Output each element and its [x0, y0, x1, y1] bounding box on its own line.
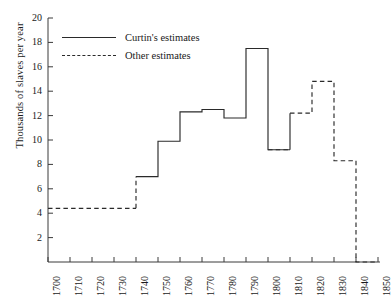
- x-tick-label: 1840: [360, 276, 370, 296]
- x-tick-label: 1710: [74, 276, 84, 296]
- legend-label: Curtin's estimates: [125, 32, 200, 43]
- x-tick-label: 1830: [338, 276, 348, 296]
- legend-swatch-solid-line-icon: [62, 37, 116, 38]
- y-tick-label: 12: [20, 111, 42, 121]
- y-tick-label: 20: [20, 13, 42, 23]
- x-axis-ticks: [48, 257, 378, 262]
- x-tick-label: 1800: [272, 276, 282, 296]
- y-tick-label: 16: [20, 62, 42, 72]
- x-tick-label: 1740: [140, 276, 150, 296]
- x-tick-label: 1850: [382, 276, 392, 296]
- x-tick-label: 1770: [206, 276, 216, 296]
- chart-legend: Curtin's estimates Other estimates: [62, 28, 200, 64]
- x-tick-label: 1730: [118, 276, 128, 296]
- legend-item-curtins-estimates: Curtin's estimates: [62, 28, 200, 46]
- series-other-estimates: [48, 81, 378, 262]
- x-tick-label: 1750: [162, 276, 172, 296]
- x-tick-label: 1780: [228, 276, 238, 296]
- series-curtins-estimates: [136, 49, 290, 177]
- legend-swatch-dashed-line-icon: [62, 55, 116, 56]
- x-tick-label: 1720: [96, 276, 106, 296]
- x-tick-label: 1820: [316, 276, 326, 296]
- y-tick-label: 14: [20, 86, 42, 96]
- x-tick-label: 1790: [250, 276, 260, 296]
- y-tick-label: 8: [20, 159, 42, 169]
- legend-item-other-estimates: Other estimates: [62, 46, 200, 64]
- y-tick-label: 10: [20, 135, 42, 145]
- y-tick-label: 6: [20, 184, 42, 194]
- y-tick-label: 18: [20, 37, 42, 47]
- y-tick-label: 2: [20, 233, 42, 243]
- x-tick-label: 1760: [184, 276, 194, 296]
- y-tick-label: 4: [20, 208, 42, 218]
- y-axis-ticks: [48, 18, 53, 238]
- legend-label: Other estimates: [125, 50, 191, 61]
- x-tick-label: 1810: [294, 276, 304, 296]
- x-tick-label: 1700: [52, 276, 62, 296]
